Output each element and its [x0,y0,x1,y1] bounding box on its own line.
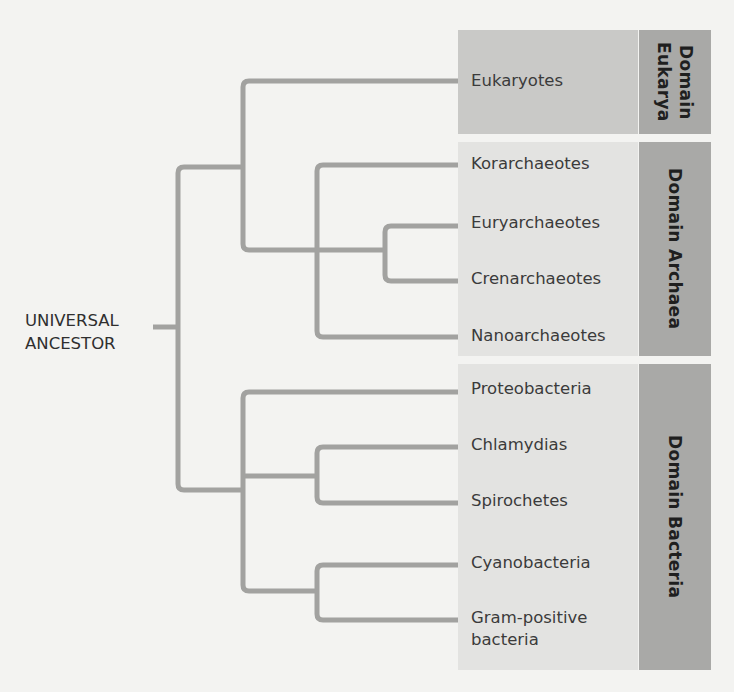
root-label-line1: UNIVERSAL [25,311,119,330]
taxon-chlamydias: Chlamydias [471,434,567,455]
taxon-nanoarchaeotes: Nanoarchaeotes [471,325,606,346]
gram-positive-line2: bacteria [471,630,539,649]
taxon-spirochetes: Spirochetes [471,490,568,511]
taxon-cyanobacteria: Cyanobacteria [471,552,591,573]
taxon-euryarchaeotes: Euryarchaeotes [471,212,600,233]
universal-ancestor-label: UNIVERSAL ANCESTOR [25,309,119,355]
phylogenetic-tree-diagram: Domain Eukarya Domain Archaea Domain Bac… [0,0,734,692]
taxon-gram-positive-bacteria: Gram-positive bacteria [471,607,587,651]
bacteria-node [243,392,458,591]
taxon-korarchaeotes: Korarchaeotes [471,153,590,174]
eury-cren-node [385,226,458,281]
root-node [178,167,243,490]
cyano-grampositive-node [317,565,458,620]
taxon-eukaryotes: Eukaryotes [471,70,563,91]
gram-positive-line1: Gram-positive [471,608,587,627]
root-label-line2: ANCESTOR [25,334,116,353]
chlamydias-spirochetes-node [317,447,458,503]
taxon-proteobacteria: Proteobacteria [471,378,592,399]
taxon-crenarchaeotes: Crenarchaeotes [471,268,601,289]
